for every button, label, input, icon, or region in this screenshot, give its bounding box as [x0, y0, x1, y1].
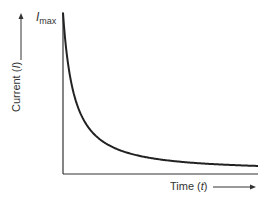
- y-axis-label: Current (I): [10, 62, 22, 112]
- x-axis-arrow-icon: [250, 185, 256, 190]
- imax-label: Imax: [36, 10, 56, 26]
- current-decay-curve: [63, 13, 258, 166]
- y-axis-arrow-icon: [19, 13, 24, 19]
- x-axis-label: Time (t): [170, 180, 208, 192]
- chart-canvas: [0, 0, 267, 201]
